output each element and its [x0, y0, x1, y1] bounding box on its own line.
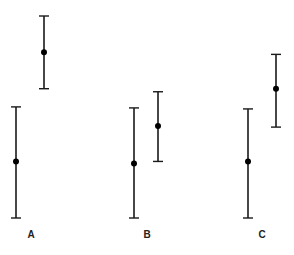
mean-marker: [273, 86, 279, 92]
category-label-b: B: [143, 229, 150, 240]
error-bars-layer: [11, 16, 281, 218]
error-bar-c-1: [243, 109, 253, 218]
mean-marker: [155, 123, 161, 129]
category-label-a: A: [27, 229, 34, 240]
error-bar-a-2: [39, 16, 49, 89]
category-labels: ABC: [27, 229, 265, 240]
mean-marker: [131, 160, 137, 166]
error-bar-c-2: [271, 54, 281, 127]
mean-marker: [41, 49, 47, 55]
mean-marker: [245, 158, 251, 164]
error-bar-b-1: [129, 108, 139, 218]
error-bar-chart: ABC: [0, 0, 294, 255]
error-bar-b-2: [153, 92, 163, 162]
category-label-c: C: [258, 229, 265, 240]
error-bar-a-1: [11, 107, 21, 218]
mean-marker: [13, 158, 19, 164]
